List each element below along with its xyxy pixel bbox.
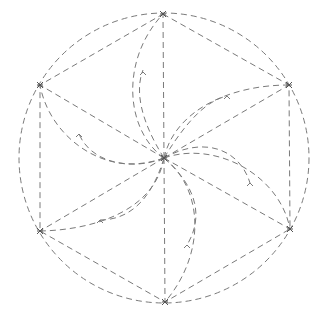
arrowhead-icon bbox=[247, 183, 253, 186]
arrowhead-icon bbox=[140, 72, 146, 75]
petal-upper-left bbox=[40, 85, 164, 164]
spoke-bottom bbox=[164, 158, 165, 302]
spoke-lower-right bbox=[164, 158, 290, 229]
petal-inner-curve bbox=[100, 158, 164, 220]
pinwheel-diagram bbox=[0, 0, 320, 312]
diagram-svg bbox=[0, 0, 320, 312]
marker-upper-right-icon bbox=[286, 82, 292, 88]
petal-bottom bbox=[164, 158, 196, 302]
spoke-top bbox=[163, 14, 164, 158]
arrowhead-icon bbox=[184, 245, 190, 248]
marker-lower-left-icon bbox=[37, 228, 43, 234]
petal-lower-right bbox=[164, 147, 290, 229]
arrowhead-icon bbox=[76, 134, 82, 137]
petal-inner-curve bbox=[139, 70, 164, 158]
petal-outer-curve bbox=[40, 85, 164, 164]
petal-inner-curve bbox=[79, 134, 164, 164]
petal-outer-curve bbox=[133, 14, 164, 158]
petal-outer-curve bbox=[164, 153, 290, 229]
petal-top bbox=[133, 14, 164, 158]
petal-outer-curve bbox=[164, 158, 195, 302]
petal-inner-curve bbox=[164, 158, 196, 245]
